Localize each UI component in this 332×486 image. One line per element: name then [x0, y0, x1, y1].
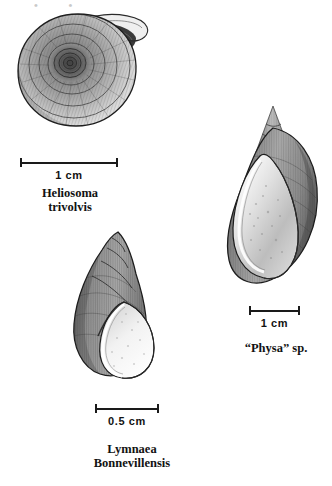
scale-label-physa: 1 cm: [249, 317, 300, 329]
caption-line-genus: Lymnaea: [62, 442, 202, 456]
caption-physa: “Physa” sp.: [228, 341, 324, 355]
illustration-plate: • •: [0, 0, 332, 486]
caption-line-genus: “Physa” sp.: [228, 341, 324, 355]
scale-label-lymnaea: 0.5 cm: [88, 415, 166, 427]
caption-lymnaea: Lymnaea Bonnevillensis: [62, 442, 202, 470]
scale-bar-rule: [20, 162, 118, 164]
figure-physa: [216, 100, 332, 298]
caption-line-species: Bonnevillensis: [62, 456, 202, 470]
figure-lymnaea: [62, 226, 170, 390]
caption-line-species: trivolvis: [14, 200, 126, 214]
scale-bar-lymnaea: [95, 404, 159, 413]
scale-label-heliosoma: 1 cm: [20, 169, 118, 181]
caption-line-genus: Heliosoma: [14, 186, 126, 200]
cropped-text-remnant: • •: [34, 0, 86, 7]
scale-bar-cap-right: [298, 306, 300, 315]
caption-heliosoma: Heliosoma trivolvis: [14, 186, 126, 214]
scale-bar-cap-right: [157, 404, 159, 413]
scale-bar-rule: [95, 408, 159, 410]
scale-bar-cap-right: [116, 158, 118, 167]
scale-bar-physa: [249, 306, 300, 315]
figure-heliosoma: [8, 8, 158, 140]
scale-bar-heliosoma: [20, 158, 118, 167]
scale-bar-rule: [249, 310, 300, 312]
